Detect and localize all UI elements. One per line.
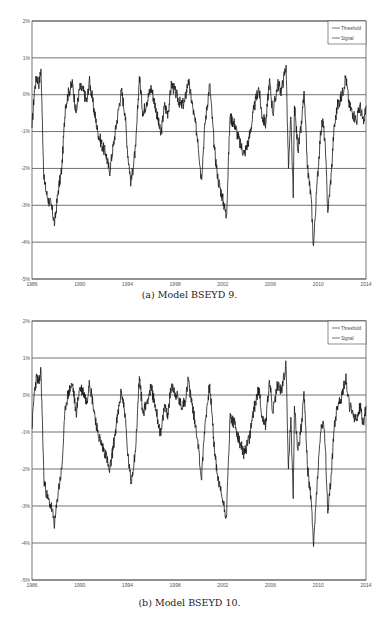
x-tick-label: 1990 — [74, 582, 85, 588]
caption-a: (a) Model BSEYD 9. — [0, 289, 379, 300]
x-tick-label: 2010 — [313, 582, 324, 588]
y-tick-label: 1% — [23, 355, 31, 361]
legend-label-threshold: Threshold — [341, 326, 362, 331]
legend-label-threshold: Threshold — [341, 26, 362, 31]
x-tick-label: 1998 — [170, 582, 181, 588]
y-tick-label: 2% — [23, 318, 31, 324]
legend-box — [328, 21, 366, 44]
x-tick-label: 2006 — [265, 281, 276, 287]
legend: ThresholdSignal — [328, 321, 366, 344]
x-tick-label: 2014 — [360, 281, 371, 287]
x-tick-label: 1998 — [170, 281, 181, 287]
y-tick-label: -2% — [21, 466, 30, 472]
y-tick-label: -1% — [21, 429, 30, 435]
legend-label-signal: Signal — [341, 336, 354, 341]
plot-frame — [32, 21, 366, 279]
y-tick-label: -3% — [21, 503, 30, 509]
x-tick-label: 2010 — [313, 281, 324, 287]
y-tick-label: 0% — [23, 91, 31, 97]
y-tick-label: 2% — [23, 18, 31, 24]
x-tick-label: 2002 — [217, 582, 228, 588]
y-tick-label: -2% — [21, 165, 30, 171]
signal-line — [32, 361, 366, 547]
legend-label-signal: Signal — [341, 36, 354, 41]
legend: ThresholdSignal — [328, 21, 366, 44]
y-tick-label: -3% — [21, 202, 30, 208]
x-tick-label: 2006 — [265, 582, 276, 588]
y-tick-label: 1% — [23, 55, 31, 61]
x-tick-label: 2002 — [217, 281, 228, 287]
figure-panel-b: 2%1%0%-1%-2%-3%-4%-5%1986199019941998200… — [0, 300, 379, 617]
x-tick-label: 1986 — [26, 582, 37, 588]
x-tick-label: 1986 — [26, 281, 37, 287]
figure-panel-a: 2%1%0%-1%-2%-3%-4%-5%1986199019941998200… — [0, 0, 379, 305]
x-tick-label: 2014 — [360, 582, 371, 588]
x-tick-label: 1994 — [122, 281, 133, 287]
y-tick-label: -4% — [21, 540, 30, 546]
y-tick-label: -1% — [21, 128, 30, 134]
x-tick-label: 1994 — [122, 582, 133, 588]
signal-line — [32, 65, 366, 246]
y-tick-label: 0% — [23, 392, 31, 398]
caption-b: (b) Model BSEYD 10. — [0, 597, 379, 608]
legend-box — [328, 321, 366, 344]
chart-a-plot: 2%1%0%-1%-2%-3%-4%-5%1986199019941998200… — [0, 0, 379, 290]
chart-b-plot: 2%1%0%-1%-2%-3%-4%-5%1986199019941998200… — [0, 300, 379, 595]
y-tick-label: -4% — [21, 239, 30, 245]
x-tick-label: 1990 — [74, 281, 85, 287]
